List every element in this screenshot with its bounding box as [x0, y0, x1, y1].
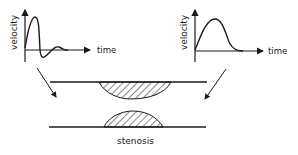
upper-plaque	[99, 82, 171, 99]
stenosis-label: stenosis	[117, 136, 154, 146]
left-velocity-plot: velocity time	[9, 10, 116, 62]
right-ylabel: velocity	[179, 14, 189, 50]
right-xlabel: time	[268, 46, 287, 56]
right-velocity-curve	[195, 19, 243, 51]
right-velocity-plot: velocity time	[179, 10, 287, 62]
left-velocity-curve	[25, 17, 68, 57]
upper-vessel	[50, 82, 207, 99]
left-xlabel: time	[97, 45, 116, 55]
left-ylabel: velocity	[9, 14, 19, 50]
right-arrow	[205, 69, 226, 99]
lower-vessel: stenosis	[49, 111, 206, 146]
stenosis-diagram: velocity time velocity time stenosis	[0, 0, 298, 155]
lower-plaque	[104, 111, 163, 127]
